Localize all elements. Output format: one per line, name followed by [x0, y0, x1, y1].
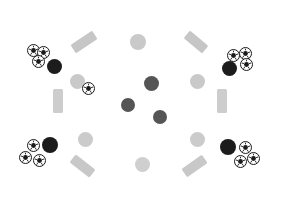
- gray-bar-shape: [181, 155, 207, 178]
- light-ball-shape: [130, 34, 146, 50]
- soccer-ball-icon: [227, 49, 240, 62]
- soccer-ball-icon: [239, 141, 252, 154]
- object-scatter-scene: [0, 0, 284, 217]
- dark-ball-shape: [220, 139, 236, 155]
- soccer-ball-icon: [32, 55, 45, 68]
- light-ball-shape: [190, 132, 205, 147]
- dark-ball-shape: [47, 59, 62, 74]
- gray-bar-shape: [70, 31, 97, 54]
- soccer-ball-icon: [234, 155, 247, 168]
- soccer-ball-icon: [27, 139, 40, 152]
- dark-ball-shape: [42, 137, 58, 153]
- soccer-ball-icon: [247, 152, 260, 165]
- dark-ball-shape: [222, 61, 237, 76]
- gray-bar-shape: [217, 89, 227, 113]
- dark-ball-shape: [153, 110, 167, 124]
- light-ball-shape: [190, 74, 205, 89]
- dark-ball-shape: [121, 98, 135, 112]
- gray-bar-shape: [53, 89, 63, 113]
- dark-ball-shape: [144, 76, 159, 91]
- gray-bar-shape: [69, 154, 95, 177]
- soccer-ball-icon: [82, 82, 95, 95]
- light-ball-shape: [78, 132, 93, 147]
- gray-bar-shape: [184, 30, 209, 53]
- soccer-ball-icon: [240, 58, 253, 71]
- soccer-ball-icon: [33, 154, 46, 167]
- light-ball-shape: [135, 157, 150, 172]
- soccer-ball-icon: [19, 151, 32, 164]
